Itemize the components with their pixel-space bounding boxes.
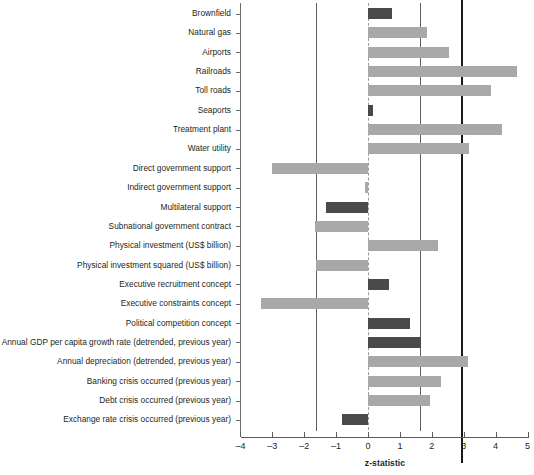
x-axis-tick-label: –4 bbox=[228, 441, 252, 451]
bar bbox=[326, 202, 368, 213]
bar bbox=[365, 182, 368, 193]
category-axis-line bbox=[240, 3, 241, 437]
category-axis-tick bbox=[236, 168, 240, 169]
x-axis-tick bbox=[528, 432, 529, 437]
category-axis-tick bbox=[236, 284, 240, 285]
category-axis-tick bbox=[236, 420, 240, 421]
category-axis-tick bbox=[236, 33, 240, 34]
x-axis-line bbox=[241, 437, 529, 438]
x-axis-tick-label: –1 bbox=[324, 441, 348, 451]
x-axis-tick-label: 5 bbox=[516, 441, 534, 451]
bar bbox=[316, 260, 368, 271]
bar bbox=[368, 279, 389, 290]
x-axis-tick-label: 3 bbox=[452, 441, 476, 451]
x-axis-tick bbox=[240, 432, 241, 437]
category-axis-tick bbox=[236, 110, 240, 111]
bar bbox=[368, 395, 430, 406]
category-axis-tick bbox=[236, 149, 240, 150]
bar bbox=[368, 124, 502, 135]
x-axis-tick bbox=[400, 432, 401, 437]
x-axis-tick bbox=[304, 432, 305, 437]
category-axis-tick bbox=[236, 207, 240, 208]
bar bbox=[368, 337, 421, 348]
x-axis-tick-label: 0 bbox=[356, 441, 380, 451]
chart-container: BrownfieldNatural gasAirportsRailroadsTo… bbox=[0, 0, 534, 475]
category-axis-tick bbox=[236, 226, 240, 227]
category-axis-tick bbox=[236, 188, 240, 189]
x-axis-title: z-statistic bbox=[241, 458, 529, 468]
bar bbox=[261, 298, 368, 309]
bar bbox=[315, 221, 368, 232]
bar bbox=[368, 66, 517, 77]
category-axis-tick bbox=[236, 246, 240, 247]
bar bbox=[368, 27, 427, 38]
x-axis-tick bbox=[368, 432, 369, 437]
bar bbox=[368, 143, 469, 154]
bar bbox=[368, 85, 491, 96]
category-axis-tick bbox=[236, 342, 240, 343]
bar bbox=[272, 163, 368, 174]
bar bbox=[368, 318, 410, 329]
bar bbox=[368, 376, 441, 387]
x-axis-tick-label: 1 bbox=[388, 441, 412, 451]
category-axis-tick bbox=[236, 72, 240, 73]
x-axis-tick-label: 2 bbox=[420, 441, 444, 451]
x-axis-tick bbox=[496, 432, 497, 437]
category-axis-tick bbox=[236, 304, 240, 305]
x-axis-tick-label: –3 bbox=[260, 441, 284, 451]
category-axis-tick bbox=[236, 91, 240, 92]
bar bbox=[368, 105, 373, 116]
x-axis-tick bbox=[432, 432, 433, 437]
bar bbox=[368, 8, 392, 19]
category-axis-tick bbox=[236, 381, 240, 382]
bar bbox=[368, 356, 468, 367]
plot-area bbox=[0, 0, 534, 430]
x-axis-tick bbox=[272, 432, 273, 437]
category-axis-tick bbox=[236, 14, 240, 15]
category-axis-tick bbox=[236, 362, 240, 363]
significance-reference-line bbox=[316, 3, 317, 431]
category-axis-tick bbox=[236, 401, 240, 402]
bar bbox=[368, 47, 449, 58]
category-axis-tick bbox=[236, 265, 240, 266]
category-axis-tick bbox=[236, 52, 240, 53]
category-axis-tick bbox=[236, 323, 240, 324]
x-axis-tick-label: –2 bbox=[292, 441, 316, 451]
category-axis-tick bbox=[236, 130, 240, 131]
x-axis-tick bbox=[464, 432, 465, 437]
bar bbox=[368, 240, 438, 251]
x-axis-tick bbox=[336, 432, 337, 437]
bar bbox=[342, 414, 368, 425]
x-axis-tick-label: 4 bbox=[484, 441, 508, 451]
